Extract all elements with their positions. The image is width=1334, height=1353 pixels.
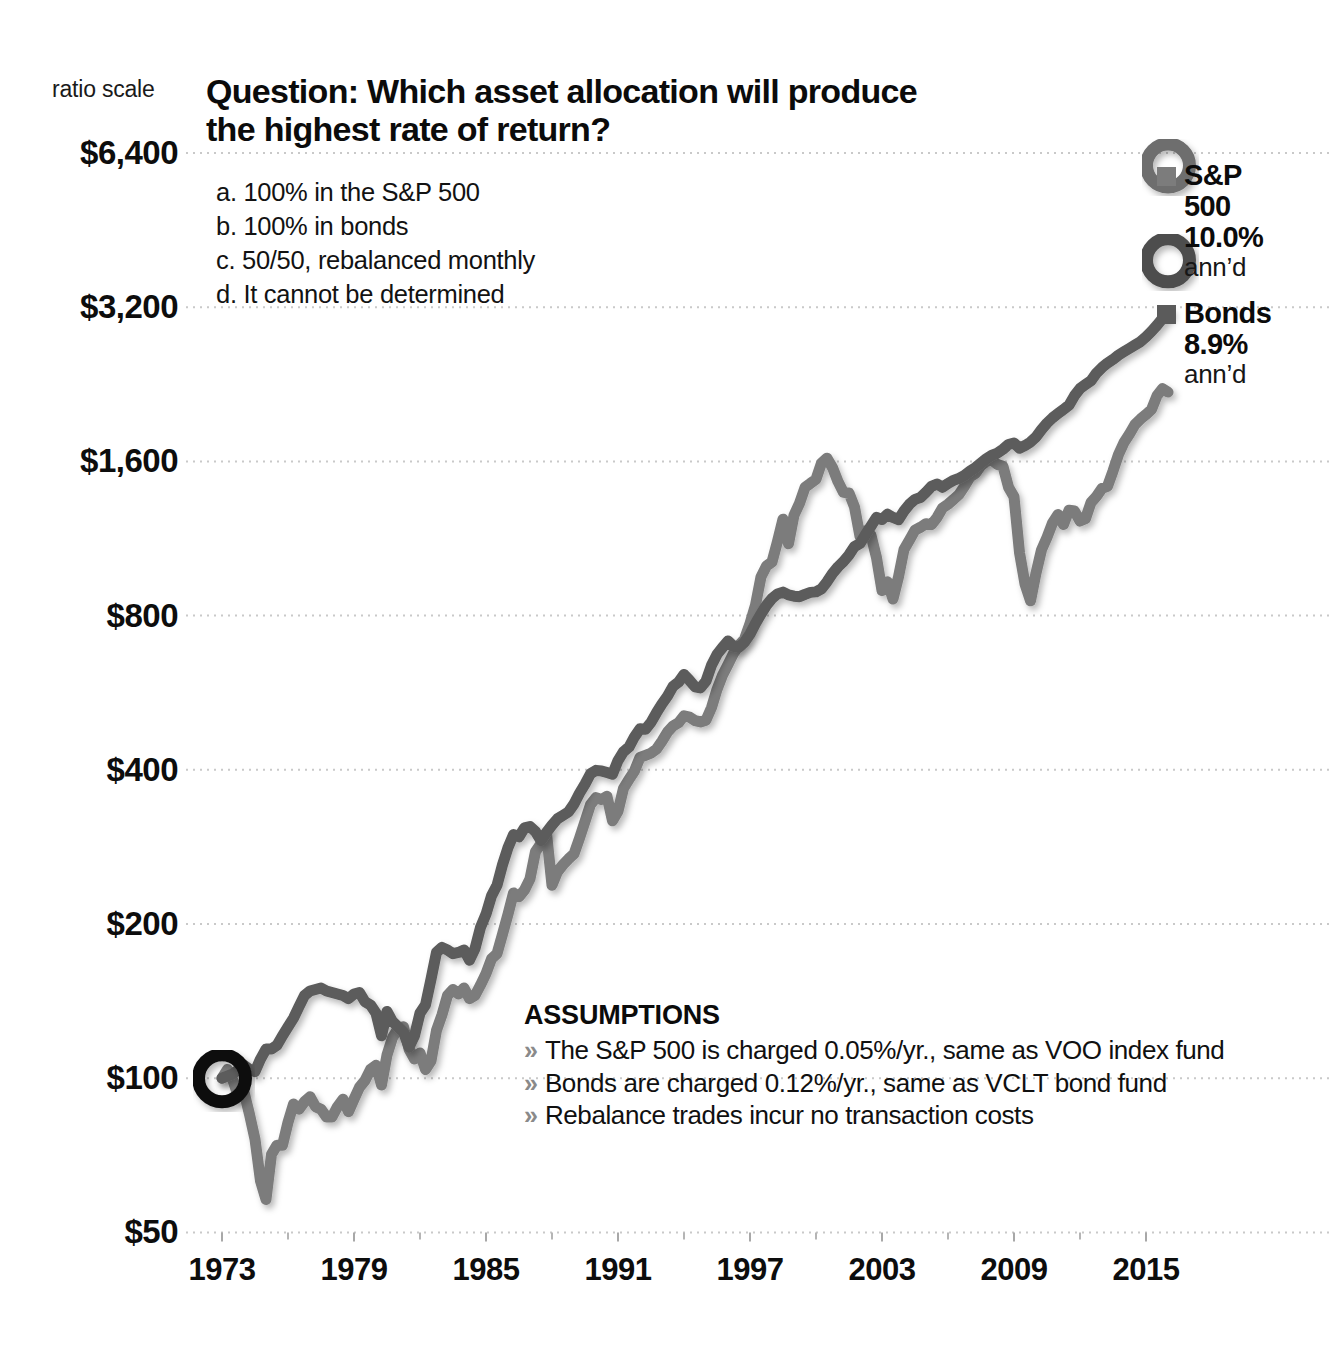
x-axis-tick-label: 2015: [1113, 1252, 1180, 1288]
legend-bonds-annd: ann’d: [1157, 360, 1334, 389]
bullet-guillemet-icon: »: [524, 1069, 538, 1098]
legend-sp500-name-line2: 500: [1184, 190, 1231, 222]
legend-sp500-annd: ann’d: [1157, 253, 1334, 282]
legend-item-bonds: Bonds 8.9% ann’d: [1157, 298, 1334, 389]
assumption-text-2: Bonds are charged 0.12%/yr., same as VCL…: [545, 1068, 1167, 1099]
x-axis-tick-label: 2009: [981, 1252, 1048, 1288]
legend-sp500-name-line1: S&P: [1184, 159, 1242, 191]
assumption-item: » Rebalance trades incur no transaction …: [524, 1100, 1224, 1131]
bullet-guillemet-icon: »: [524, 1036, 538, 1065]
choice-a: a. 100% in the S&P 500: [216, 176, 535, 210]
assumption-item: » The S&P 500 is charged 0.05%/yr., same…: [524, 1035, 1224, 1066]
choice-d: d. It cannot be determined: [216, 278, 535, 312]
x-axis-tick-label: 1997: [717, 1252, 784, 1288]
x-axis-tick-label: 1973: [189, 1252, 256, 1288]
legend-sp500-pct: 10.0%: [1157, 222, 1334, 253]
choice-b: b. 100% in bonds: [216, 210, 535, 244]
assumption-text-1: The S&P 500 is charged 0.05%/yr., same a…: [545, 1035, 1225, 1066]
x-axis-tick-label: 1979: [321, 1252, 388, 1288]
x-axis-tick-label: 2003: [849, 1252, 916, 1288]
chart-legend: S&P 500 10.0% ann’d Bonds 8.9% ann’d: [1157, 160, 1334, 404]
x-axis-labels: 19731979198519911997200320092015: [0, 0, 1334, 1353]
legend-bonds-pct: 8.9%: [1157, 329, 1334, 360]
question-choices: a. 100% in the S&P 500 b. 100% in bonds …: [216, 176, 535, 312]
choice-c: c. 50/50, rebalanced monthly: [216, 244, 535, 278]
assumptions-heading: ASSUMPTIONS: [524, 1000, 1224, 1031]
page-title: Question: Which asset allocation will pr…: [206, 72, 936, 148]
legend-swatch-bonds-icon: [1157, 305, 1176, 324]
assumptions-block: ASSUMPTIONS » The S&P 500 is charged 0.0…: [524, 1000, 1224, 1131]
chart-page: ratio scale $6,400$3,200$1,600$800$400$2…: [0, 0, 1334, 1353]
legend-item-sp500: S&P 500 10.0% ann’d: [1157, 160, 1334, 282]
legend-swatch-sp500-icon: [1157, 167, 1176, 186]
bullet-guillemet-icon: »: [524, 1101, 538, 1130]
legend-bonds-name: Bonds: [1184, 298, 1271, 329]
assumption-text-3: Rebalance trades incur no transaction co…: [545, 1100, 1034, 1131]
x-axis-tick-label: 1985: [453, 1252, 520, 1288]
x-axis-tick-label: 1991: [585, 1252, 652, 1288]
assumption-item: » Bonds are charged 0.12%/yr., same as V…: [524, 1068, 1224, 1099]
